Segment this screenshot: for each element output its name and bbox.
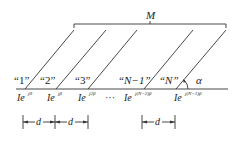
element-label-3: “3” [75,74,90,86]
current-3: Ie j2β [77,91,96,103]
ellipsis: ··· [105,92,115,103]
antenna-array-diagram: M α “1” “2” “3” “N−1” “N” Ie j0 Ie jβ Ie… [0,0,241,144]
element-label-n: “N” [159,74,179,86]
current-1: Ie j0 [16,91,32,103]
element-label-2: “2” [40,74,55,86]
svg-text:Ie: Ie [46,92,55,103]
svg-text:jβ: jβ [57,91,62,96]
current-n: Ie j(N−1)β [173,91,202,103]
svg-text:Ie: Ie [16,92,25,103]
svg-text:j(N−2)β: j(N−2)β [134,91,152,96]
current-n-1: Ie j(N−2)β [123,91,152,103]
angle-label-alpha: α [196,74,202,86]
element-label-n-1: “N−1” [118,74,151,86]
length-bracket [74,21,226,28]
current-2: Ie jβ [46,91,62,103]
svg-text:j0: j0 [27,91,32,96]
spacing-dimensions [23,115,175,129]
svg-text:j2β: j2β [88,91,96,96]
svg-text:Ie: Ie [77,92,86,103]
spacing-label-1: d [36,116,42,127]
spacing-label-2: d [68,116,74,127]
element-label-1: “1” [14,74,29,86]
svg-text:Ie: Ie [173,92,182,103]
length-label-m: M [145,9,156,21]
spacing-label-3: d [155,116,161,127]
svg-text:Ie: Ie [123,92,132,103]
svg-text:j(N−1)β: j(N−1)β [184,91,202,96]
